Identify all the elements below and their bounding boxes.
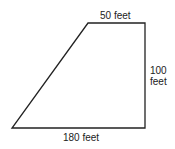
bottom-side-label: 180 feet [63, 132, 99, 143]
top-side-label: 50 feet [100, 10, 131, 21]
right-side-label-number: 100 [150, 65, 167, 76]
right-side-label-unit: feet [150, 76, 167, 87]
trapezoid-shape [12, 23, 145, 128]
trapezoid-diagram: 50 feet 100 feet 180 feet [0, 0, 175, 149]
